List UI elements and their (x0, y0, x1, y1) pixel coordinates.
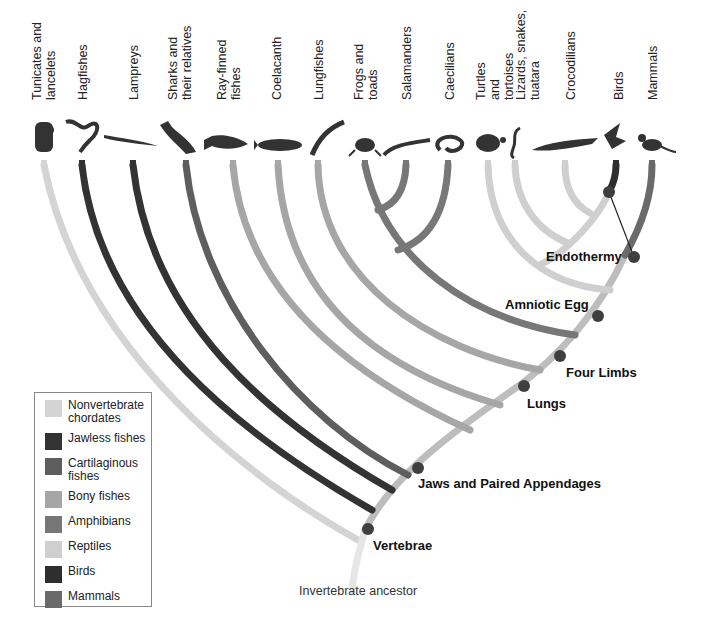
node-four-limbs (554, 350, 566, 362)
taxon-label-coelacanth: Coelacanth (270, 0, 310, 100)
taxon-label-ray-finned: Ray-finned fishes (215, 0, 255, 100)
legend-item: Amphibians (45, 515, 151, 533)
coelacanth-icon (254, 139, 302, 151)
endothermy-connector (609, 192, 634, 257)
branch-lizards (515, 165, 568, 243)
legend-item: Birds (45, 565, 151, 583)
legend-swatch (45, 541, 62, 558)
legend-item: Reptiles (45, 540, 151, 558)
salamander-icon (384, 140, 430, 155)
legend-swatch (45, 433, 62, 450)
branch-turtles (488, 165, 610, 290)
tunicate-icon (35, 122, 54, 152)
bird-icon (604, 123, 626, 149)
legend-item: Nonvertebrate chordates (45, 399, 151, 425)
monkey-icon (638, 134, 676, 152)
trait-label-four-limbs: Four Limbs (566, 365, 637, 380)
legend-swatch (45, 566, 62, 583)
snake-icon (512, 128, 520, 158)
shark-icon (160, 121, 196, 154)
branch-ray-finned (233, 165, 470, 430)
taxon-label-crocodilians: Crocodilians (564, 0, 604, 100)
branch-salamanders (378, 165, 406, 210)
taxon-label-lampreys: Lampreys (127, 0, 167, 100)
taxon-label-tunicates: Tunicates and lancelets (30, 0, 70, 100)
ray-finned-fish-icon (204, 135, 248, 150)
node-vertebrae (362, 523, 374, 535)
crocodile-icon (532, 138, 598, 151)
taxon-label-sharks: Sharks and their relatives (166, 0, 206, 100)
taxon-label-turtles: Turtles and tortoises (474, 0, 514, 100)
root-label: Invertebrate ancestor (299, 584, 417, 598)
lungfish-icon (312, 122, 344, 155)
branch-mammals (625, 165, 652, 255)
legend: Nonvertebrate chordates Jawless fishes C… (34, 392, 152, 607)
trait-label-jaws: Jaws and Paired Appendages (418, 476, 601, 491)
taxon-label-mammals: Mammals (646, 0, 686, 100)
trait-label-lungs: Lungs (527, 396, 566, 411)
node-amniotic-egg (592, 310, 604, 322)
legend-item: Bony fishes (45, 490, 151, 508)
taxon-label-frogs: Frogs and toads (352, 0, 392, 100)
node-endothermy-birds (603, 186, 615, 198)
hagfish-icon (66, 121, 97, 152)
branch-lungfishes (318, 165, 540, 370)
legend-swatch (45, 516, 62, 533)
caecilian-icon (437, 137, 462, 151)
node-lungs (518, 380, 530, 392)
taxon-label-lungfishes: Lungfishes (312, 0, 352, 100)
legend-item: Jawless fishes (45, 432, 151, 450)
legend-swatch (45, 591, 62, 608)
frog-icon (349, 138, 381, 156)
lamprey-icon (104, 135, 158, 146)
trait-label-amniotic-egg: Amniotic Egg (505, 297, 589, 312)
trait-label-vertebrae: Vertebrae (373, 538, 432, 553)
taxon-label-salamanders: Salamanders (400, 0, 440, 100)
legend-item: Cartilaginous fishes (45, 457, 151, 483)
legend-swatch (45, 400, 62, 417)
node-jaws (412, 462, 424, 474)
trait-label-endothermy: Endothermy (546, 249, 622, 264)
taxon-label-lizards: Lizards, snakes, tuatara (514, 0, 554, 100)
turtle-icon (476, 134, 506, 152)
node-endothermy (628, 251, 640, 263)
legend-item: Mammals (45, 590, 151, 608)
taxon-label-hagfishes: Hagfishes (76, 0, 116, 100)
branch-crocodilians (565, 165, 590, 213)
legend-swatch (45, 491, 62, 508)
branch-birds (610, 165, 616, 190)
legend-swatch (45, 458, 62, 475)
